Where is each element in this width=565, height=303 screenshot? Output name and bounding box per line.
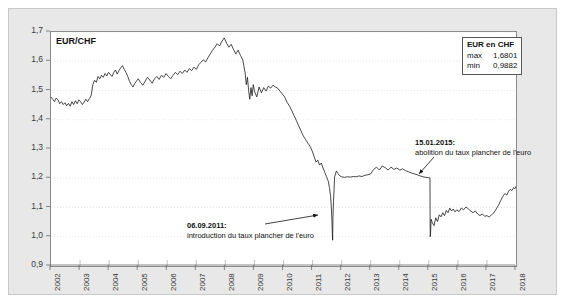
y-tick-label: 1,6 [17,55,43,64]
legend-title: EUR en CHF [467,40,517,50]
annotation-2015-date: 15.01.2015: [415,138,531,148]
x-tick-label: 2015 [431,273,439,291]
chart-figure: EUR/CHF EUR en CHF max 1,6801 min 0,9882… [0,0,565,303]
x-tick-label: 2012 [344,273,352,291]
annotation-2011: 06.09.2011: introduction du taux planche… [187,221,314,241]
x-tick-marks [80,260,487,266]
x-tick-label: 2002 [54,273,62,291]
annotation-2011-text: introduction du taux plancher de l'euro [187,231,314,241]
x-tick-label: 2005 [141,273,149,291]
legend-row-min: min 0,9882 [467,61,517,71]
x-tick-label: 2008 [228,273,236,291]
x-tick-label: 2014 [402,273,410,291]
annotation-2015-text: abolition du taux plancher de l'euro [415,148,531,158]
y-tick-label: 0,9 [17,260,43,269]
x-tick-label: 2010 [286,273,294,291]
legend-key-max: max [467,51,487,61]
y-tick-label: 1,2 [17,172,43,181]
x-tick-label: 2003 [83,273,91,291]
y-tick-label: 1,3 [17,143,43,152]
y-tick-label: 1,5 [17,85,43,94]
x-tick-label: 2011 [315,274,323,291]
x-tick-label: 2004 [112,273,120,291]
x-tick-label: 2013 [373,273,381,291]
y-tick-label: 1,7 [17,26,43,35]
legend-key-min: min [467,61,487,71]
chart-panel: EUR/CHF EUR en CHF max 1,6801 min 0,9882… [8,8,557,295]
legend-value-min: 0,9882 [493,61,517,71]
legend-row-max: max 1,6801 [467,51,517,61]
x-tick-label: 2009 [257,273,265,291]
x-tick-label: 2006 [170,273,178,291]
legend-value-max: 1,6801 [493,51,517,61]
annotation-2011-date: 06.09.2011: [187,221,314,231]
x-tick-label: 2016 [460,273,468,291]
y-tick-label: 1,0 [17,231,43,240]
y-tick-label: 1,4 [17,114,43,123]
x-tick-label: 2007 [199,273,207,291]
x-tick-label: 2017 [489,273,497,291]
y-tick-label: 1,1 [17,202,43,211]
gridlines [51,32,516,237]
legend-box: EUR en CHF max 1,6801 min 0,9882 [462,37,522,75]
series-label: EUR/CHF [54,35,98,47]
x-tick-label: 2018 [519,273,527,291]
annotation-2015: 15.01.2015: abolition du taux plancher d… [415,138,531,158]
